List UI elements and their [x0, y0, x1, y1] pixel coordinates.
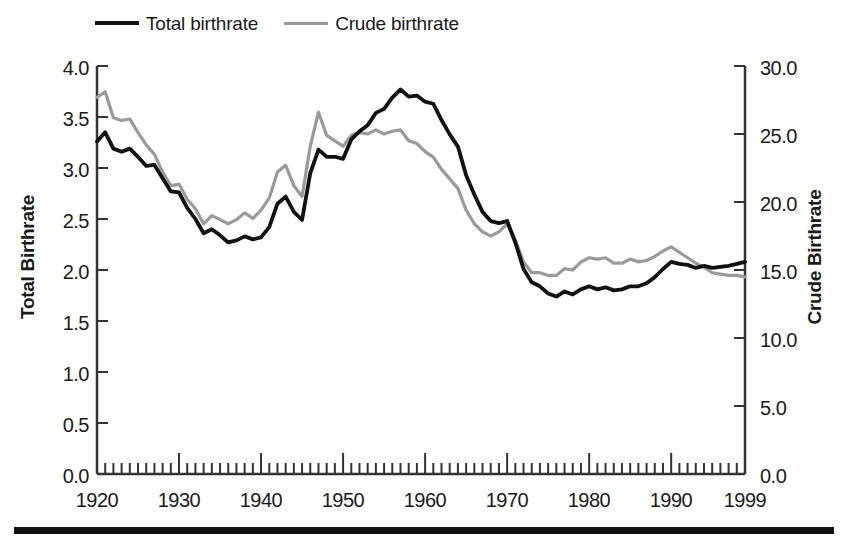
y-axis-right-ticks — [734, 66, 745, 474]
x-axis-ticks — [97, 453, 745, 474]
caption-clipped — [130, 540, 830, 550]
series-line-total-birthrate — [97, 89, 745, 296]
y-axis-left-ticks — [97, 66, 108, 474]
chart-plot-area — [0, 0, 847, 550]
series-line-crude-birthrate — [97, 92, 745, 277]
figure-container: Total birthrate Crude birthrate Total Bi… — [0, 0, 847, 550]
figure-bottom-rule — [14, 527, 834, 534]
axis-frame — [97, 66, 745, 474]
